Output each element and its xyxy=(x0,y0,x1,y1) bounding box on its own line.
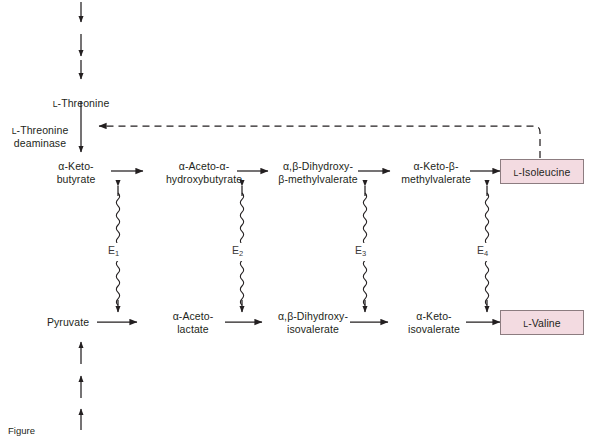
node-alpha-ketobutyrate: α-Keto-butyrate xyxy=(36,160,116,185)
product-box-l-isoleucine[interactable]: L-Isoleucine xyxy=(500,159,584,184)
node-l-threonine-deaminase: L-Threoninedeaminase xyxy=(3,111,77,149)
node-alpha-aceto-alpha-hydroxybutyrate: α-Aceto-α-hydroxybutyrate xyxy=(148,160,260,185)
node-pyruvate: Pyruvate xyxy=(36,316,100,329)
node-alpha-acetolactate: α-Aceto-lactate xyxy=(148,310,238,335)
enzyme-label-4: E4 xyxy=(470,243,495,261)
enzyme-label-2: E2 xyxy=(225,243,250,261)
figure-caption: Figure xyxy=(8,425,583,436)
node-alpha-ketoisovalerate: α-Keto-isovalerate xyxy=(386,310,482,335)
node-alpha-keto-beta-methylvalerate: α-Keto-β-methylvalerate xyxy=(386,160,486,185)
enzyme-label-1: E1 xyxy=(101,243,126,261)
node-l-threonine: L-Threonine xyxy=(31,84,131,110)
figure-canvas: L-Threonine L-Threoninedeaminase α-Keto-… xyxy=(0,0,589,436)
node-alpha-beta-dihydroxyisovalerate: α,β-Dihydroxy-isovalerate xyxy=(263,310,363,335)
pathway-connectors xyxy=(0,0,589,436)
product-box-l-valine[interactable]: L-Valine xyxy=(500,310,584,335)
node-alpha-beta-dihydroxy-beta-methylvalerate: α,β-Dihydroxy-β-methylvalerate xyxy=(263,160,373,185)
feedback-inhibition-line xyxy=(99,126,540,158)
enzyme-label-3: E3 xyxy=(348,243,373,261)
